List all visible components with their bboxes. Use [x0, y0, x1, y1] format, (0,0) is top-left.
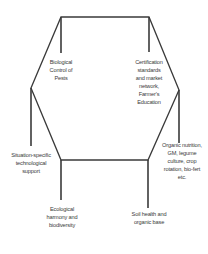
- node-line: Education: [124, 98, 174, 106]
- node-line: Soil health and: [126, 210, 172, 218]
- node-line: Control of: [40, 66, 82, 74]
- node-line: Certification: [124, 58, 174, 66]
- node-line: Ecological: [40, 205, 84, 213]
- node-line: organic base: [126, 218, 172, 226]
- node-line: Situation-specific: [4, 151, 58, 159]
- node-line: GM, legume: [158, 149, 206, 157]
- node-technological-support: Situation-specific technological support: [4, 151, 58, 175]
- node-certification: Certification standards and market netwo…: [124, 58, 174, 106]
- node-line: harmony and: [40, 213, 84, 221]
- node-line: etc.: [158, 173, 206, 181]
- node-line: Farmer's: [124, 90, 174, 98]
- node-line: Pests: [40, 74, 82, 82]
- node-ecological-harmony: Ecological harmony and biodiversity: [40, 205, 84, 229]
- node-line: biodiversity: [40, 221, 84, 229]
- node-line: support: [4, 167, 58, 175]
- node-organic-nutrition: Organic nutrition, GM, legume culture, c…: [158, 141, 206, 181]
- node-line: technological: [4, 159, 58, 167]
- node-soil-health: Soil health and organic base: [126, 210, 172, 226]
- node-line: and market: [124, 74, 174, 82]
- node-line: Organic nutrition,: [158, 141, 206, 149]
- hexagon-diagram: [0, 0, 208, 254]
- node-line: culture, crop: [158, 157, 206, 165]
- node-line: rotation, bio-fert: [158, 165, 206, 173]
- node-line: network,: [124, 82, 174, 90]
- node-line: standards: [124, 66, 174, 74]
- node-biological-control: Biological Control of Pests: [40, 58, 82, 82]
- node-line: Biological: [40, 58, 82, 66]
